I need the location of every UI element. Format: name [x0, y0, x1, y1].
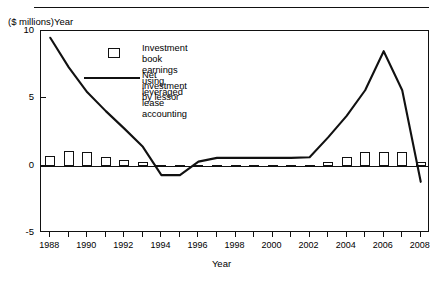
open-square-icon: [108, 48, 120, 58]
x-axis-tick-label: 2002: [299, 240, 319, 250]
x-axis-tick-label: 2004: [336, 240, 356, 250]
x-axis-tick-label: 1992: [113, 240, 133, 250]
x-axis-tick: [364, 232, 365, 237]
x-axis-tick-label: 2008: [410, 240, 430, 250]
x-axis-tick-label: 2000: [262, 240, 282, 250]
x-axis-tick: [197, 232, 198, 237]
legend-label-line: Net investment by lessor: [142, 70, 187, 103]
x-axis-tick: [179, 232, 180, 237]
x-axis-tick: [272, 232, 273, 237]
x-axis-tick: [253, 232, 254, 237]
x-axis-tick: [383, 232, 384, 237]
plot-inner: [41, 31, 428, 231]
y-axis-tick-label: 5: [6, 91, 34, 102]
x-axis-tick: [309, 232, 310, 237]
x-axis-tick: [49, 232, 50, 237]
x-axis-tick: [160, 232, 161, 237]
x-axis-tick: [235, 232, 236, 237]
x-axis-tick: [420, 232, 421, 237]
y-axis-tick-label: 10: [6, 24, 34, 35]
plot-area: [40, 30, 429, 232]
x-axis-tick: [216, 232, 217, 237]
x-axis-tick: [346, 232, 347, 237]
x-axis-tick-label: 1988: [39, 240, 59, 250]
x-axis-tick-label: 1996: [187, 240, 207, 250]
solid-line-icon: [84, 77, 140, 79]
x-axis-tick: [105, 232, 106, 237]
x-axis-tick-label: 1990: [76, 240, 96, 250]
x-axis-title: Year: [0, 258, 443, 269]
x-axis-tick: [68, 232, 69, 237]
y-axis-tick: [40, 97, 46, 98]
x-axis-tick-label: 1994: [150, 240, 170, 250]
x-axis-tick: [327, 232, 328, 237]
x-axis-tick-label: 1998: [224, 240, 244, 250]
y-axis-tick: [40, 165, 46, 166]
y-axis-tick-label: -5: [6, 226, 34, 237]
line-series-net-investment: [41, 31, 430, 233]
x-axis-tick-label: 2006: [373, 240, 393, 250]
x-axis-tick: [290, 232, 291, 237]
x-axis-tick: [86, 232, 87, 237]
y-axis-tick-label: 0: [6, 159, 34, 170]
chart-figure: ($ millions)Year -5051019881990199219941…: [0, 0, 443, 286]
x-axis-tick: [401, 232, 402, 237]
line-path: [50, 38, 420, 182]
x-axis-tick: [123, 232, 124, 237]
x-axis-tick: [142, 232, 143, 237]
top-divider-rule: [34, 7, 429, 8]
